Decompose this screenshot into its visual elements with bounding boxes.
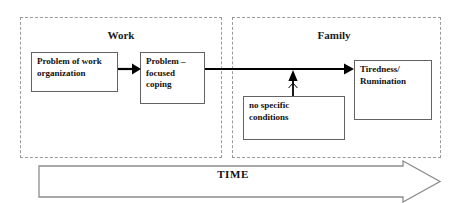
node-no-specific-conditions[interactable]: no specific conditions xyxy=(243,96,345,140)
node-problem-of-work-organization[interactable]: Problem of work organization xyxy=(31,52,118,92)
region-work-label: Work xyxy=(96,29,146,41)
time-axis-label: TIME xyxy=(150,168,316,180)
node-tiredness-rumination[interactable]: Tiredness/ Rumination xyxy=(354,60,432,120)
region-family-label: Family xyxy=(306,29,362,41)
time-axis-arrow xyxy=(38,160,442,203)
node-tiredness-rumination-label: Tiredness/ Rumination xyxy=(360,64,428,87)
node-problem-focused-coping[interactable]: Problem – focused coping xyxy=(140,52,205,104)
node-problem-focused-coping-label: Problem – focused coping xyxy=(146,56,201,91)
node-no-specific-conditions-label: no specific conditions xyxy=(249,100,341,123)
node-problem-of-work-organization-label: Problem of work organization xyxy=(37,56,114,79)
diagram-canvas: Work Family Problem of work organization… xyxy=(0,0,464,203)
